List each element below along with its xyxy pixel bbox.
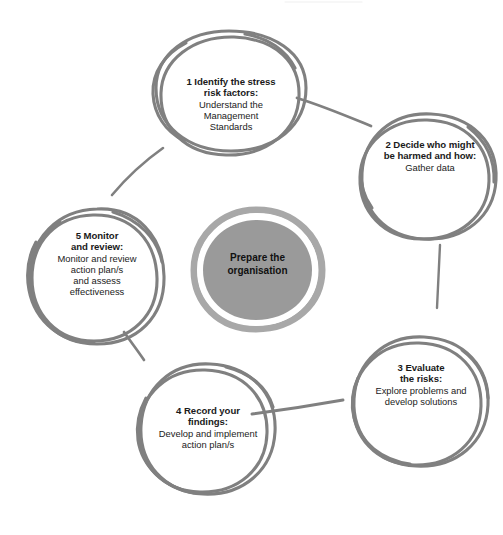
connector-1-to-2 — [297, 98, 371, 126]
step-circle-4 — [137, 364, 275, 494]
center-circle — [194, 210, 322, 329]
step-circle-2 — [360, 114, 496, 239]
step-circle-1 — [153, 31, 306, 155]
step-circle-3 — [352, 337, 488, 466]
step-circle-5 — [28, 209, 164, 344]
process-cycle-diagram: 1 Identify the stress risk factors: Unde… — [0, 0, 503, 535]
connector-5-to-1 — [112, 148, 163, 195]
sketch-circles-layer — [0, 0, 503, 535]
connector-2-to-3 — [437, 245, 440, 308]
